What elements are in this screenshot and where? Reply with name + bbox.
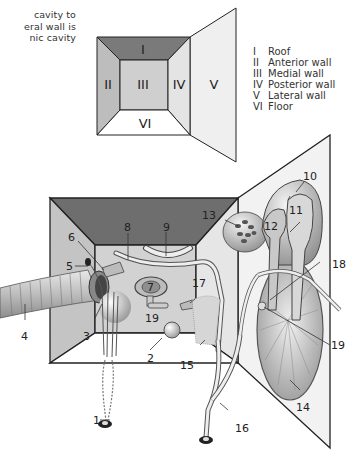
round-window — [164, 322, 180, 338]
legend-item-medial-wall: III Medial wall — [253, 68, 335, 79]
label-17: 17 — [192, 277, 206, 290]
nerve-1 — [103, 360, 106, 420]
promontory — [99, 291, 131, 323]
label-12: 12 — [264, 220, 278, 233]
label-7: 7 — [147, 281, 154, 294]
label-1: 1 — [93, 414, 100, 427]
label-2: 2 — [147, 352, 154, 365]
label-19-lateral: 19 — [331, 339, 345, 352]
legend-item-roof: I Roof — [253, 46, 335, 57]
legend-item-anterior-wall: II Anterior wall — [253, 57, 335, 68]
label-18: 18 — [332, 258, 346, 271]
label-6: 6 — [68, 231, 75, 244]
legend-item-floor: VI Floor — [253, 101, 335, 112]
legend-item-lateral-wall: V Lateral wall — [253, 90, 335, 101]
label-14: 14 — [296, 401, 310, 414]
stapedius-tendon — [148, 303, 168, 308]
label-8: 8 — [124, 221, 131, 234]
epitympanic-recess — [223, 212, 267, 252]
label-16: 16 — [235, 422, 249, 435]
label-19-medial: 19 — [145, 312, 159, 325]
label-11: 11 — [289, 204, 303, 217]
label-13: 13 — [202, 209, 216, 222]
numeral-floor: VI — [139, 116, 152, 131]
label-15: 15 — [180, 359, 194, 372]
label-5: 5 — [66, 260, 73, 273]
numeral-lateral: V — [210, 77, 219, 92]
wall-legend: I Roof II Anterior wall III Medial wall … — [253, 46, 335, 112]
legend-item-posterior-wall: IV Posterior wall — [253, 79, 335, 90]
numeral-medial: III — [137, 77, 149, 92]
label-3: 3 — [83, 330, 90, 343]
mastoid-antrum-area — [192, 296, 220, 345]
numeral-posterior: IV — [173, 77, 186, 92]
label-4: 4 — [21, 330, 28, 343]
schematic-box: I II III IV V VI — [97, 8, 236, 162]
label-9: 9 — [163, 221, 170, 234]
numeral-roof: I — [141, 42, 145, 57]
label-10: 10 — [303, 170, 317, 183]
numeral-anterior: II — [104, 77, 112, 92]
